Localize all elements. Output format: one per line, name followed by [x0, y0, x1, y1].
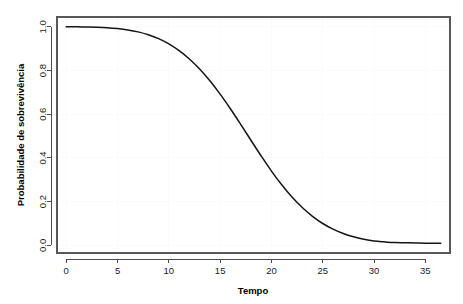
- survival-curve-line: [66, 27, 441, 243]
- y-tick-label: 1.0: [38, 20, 49, 33]
- y-tick-label: 0.4: [38, 151, 49, 164]
- x-tick-label: 0: [64, 265, 69, 276]
- y-tick-label: 0.6: [38, 108, 49, 121]
- plot-box-border: [57, 17, 450, 253]
- x-tick-label: 15: [215, 265, 226, 276]
- x-tick-label: 30: [369, 265, 380, 276]
- y-tick-label: 0.2: [38, 195, 49, 208]
- x-tick-label: 35: [420, 265, 431, 276]
- y-axis-title: Probabilidade de sobrevivência: [15, 63, 26, 206]
- y-tick-label: 0.0: [38, 239, 49, 252]
- x-tick-label: 20: [266, 265, 277, 276]
- x-axis-title: Tempo: [238, 285, 269, 296]
- x-tick-label: 5: [115, 265, 120, 276]
- plot-frame: [57, 17, 450, 253]
- survival-curve-path: [66, 27, 441, 243]
- gridlines: [57, 17, 450, 253]
- survival-plot-figure: 05101520253035 0.00.20.40.60.81.0 Tempo …: [0, 0, 463, 304]
- x-axis: 05101520253035: [64, 259, 431, 276]
- y-axis: 0.00.20.40.60.81.0: [38, 20, 52, 252]
- plot-canvas: 05101520253035 0.00.20.40.60.81.0 Tempo …: [0, 0, 463, 304]
- y-tick-label: 0.8: [38, 64, 49, 77]
- x-tick-label: 10: [164, 265, 175, 276]
- x-tick-label: 25: [317, 265, 328, 276]
